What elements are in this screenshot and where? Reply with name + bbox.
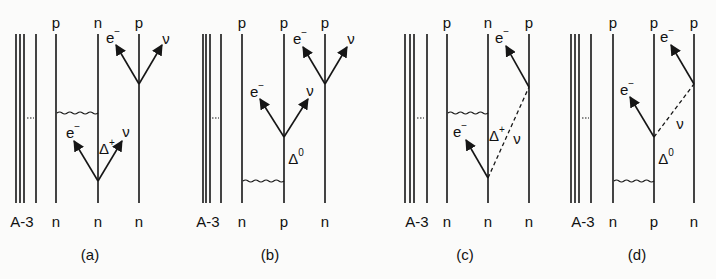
neutrino-label-text: ν	[122, 123, 130, 140]
nucleon-top-label-text: p	[52, 14, 60, 31]
nucleon-bottom-label-text: n	[135, 213, 143, 230]
electron-label-superscript: −	[301, 27, 307, 38]
nucleon-top-label: p	[443, 15, 451, 30]
delta-resonance-label: Δ+	[489, 127, 505, 143]
meson-exchange-wavy-line	[243, 180, 284, 182]
neutrino-label-text: ν	[162, 30, 170, 47]
nucleon-top-label: p	[52, 15, 60, 30]
nucleon-top-label-text: p	[443, 14, 451, 31]
core-label: A-3	[405, 214, 428, 229]
electron-label-superscript: −	[628, 78, 634, 89]
neutrino-arrow	[284, 99, 308, 137]
neutrino-label: ν	[347, 31, 355, 46]
delta-resonance-label-text: Δ	[658, 150, 668, 167]
nucleon-bottom-label-text: n	[94, 213, 102, 230]
panel-caption-text: (b)	[261, 246, 279, 263]
nucleon-top-label-text: p	[321, 14, 329, 31]
panel-caption-text: (c)	[456, 246, 474, 263]
electron-label: e−	[495, 29, 509, 45]
neutrino-label: ν	[162, 31, 170, 46]
virtual-neutrino-label-text: ν	[676, 115, 684, 132]
nucleon-bottom-label-text: n	[609, 213, 617, 230]
nucleon-bottom-label: p	[650, 214, 658, 229]
panel-caption: (d)	[628, 247, 646, 262]
electron-arrow	[630, 97, 654, 137]
electron-label-superscript: −	[114, 26, 120, 37]
delta-resonance-label-text: Δ	[489, 127, 499, 144]
nucleon-bottom-label: n	[484, 214, 492, 229]
nucleon-top-label-text: p	[238, 14, 246, 31]
double-beta-decay-diagram-figure: pnnnpne−νe−νΔ+A-3(a)pnpppne−νe−νΔ0A-3(b)…	[0, 0, 716, 279]
delta-resonance-label-superscript: +	[109, 137, 115, 148]
delta-resonance-label-text: Δ	[288, 150, 298, 167]
electron-label-superscript: −	[668, 25, 674, 36]
panel-caption-text: (a)	[81, 246, 99, 263]
nucleon-bottom-label-text: n	[525, 213, 533, 230]
nucleon-bottom-label: n	[135, 214, 143, 229]
virtual-neutrino-label: ν	[676, 116, 684, 131]
nucleon-top-label-text: p	[690, 14, 698, 31]
nucleon-bottom-label: n	[690, 214, 698, 229]
core-label-text: A-3	[10, 213, 33, 230]
panel-caption-text: (d)	[628, 246, 646, 263]
nucleon-top-label: p	[690, 15, 698, 30]
nucleon-bottom-label: n	[443, 214, 451, 229]
delta-resonance-label: Δ0	[658, 150, 674, 166]
core-label: A-3	[196, 214, 219, 229]
virtual-neutrino-label-text: ν	[513, 130, 521, 147]
core-label: A-3	[571, 214, 594, 229]
meson-exchange-wavy-line	[57, 112, 98, 114]
virtual-neutrino-label: ν	[513, 131, 521, 146]
nucleon-top-label-text: n	[94, 14, 102, 31]
electron-label: e−	[453, 123, 467, 139]
panel-caption: (b)	[261, 247, 279, 262]
electron-arrow	[671, 45, 694, 84]
delta-resonance-label-superscript: 0	[668, 147, 674, 158]
neutrino-arrow	[139, 45, 162, 84]
meson-exchange-wavy-line	[448, 112, 488, 114]
delta-resonance-label: Δ+	[99, 140, 115, 156]
nucleon-top-label-text: p	[650, 14, 658, 31]
electron-arrow	[506, 46, 529, 87]
nucleon-bottom-label-text: n	[321, 213, 329, 230]
nucleon-bottom-label-text: n	[690, 213, 698, 230]
electron-arrow	[303, 47, 325, 84]
electron-arrow	[116, 45, 139, 84]
electron-arrow	[466, 140, 488, 178]
meson-exchange-wavy-line	[614, 180, 654, 182]
panel-a	[16, 34, 162, 203]
nucleon-top-label: p	[135, 15, 143, 30]
nucleon-bottom-label: n	[52, 214, 60, 229]
electron-label: e−	[66, 124, 80, 140]
core-label-text: A-3	[405, 213, 428, 230]
electron-label-superscript: −	[258, 80, 264, 91]
neutrino-arrow	[325, 47, 347, 84]
nucleon-bottom-label-text: n	[484, 213, 492, 230]
nucleon-bottom-label: n	[609, 214, 617, 229]
nucleon-top-label-text: p	[135, 14, 143, 31]
electron-label-superscript: −	[74, 121, 80, 132]
nucleon-bottom-label: n	[94, 214, 102, 229]
nucleon-bottom-label-text: p	[280, 213, 288, 230]
nucleon-top-label-text: n	[484, 14, 492, 31]
nucleon-top-label: p	[321, 15, 329, 30]
electron-arrow	[74, 141, 98, 181]
nucleon-top-label-text: p	[280, 14, 288, 31]
electron-label: e−	[106, 29, 120, 45]
virtual-neutrino-dashed-line	[654, 84, 694, 137]
electron-label: e−	[293, 30, 307, 46]
nucleon-bottom-label-text: n	[443, 213, 451, 230]
electron-arrow	[260, 99, 284, 137]
electron-label: e−	[250, 83, 264, 99]
nucleon-top-label-text: p	[525, 14, 533, 31]
electron-label: e−	[660, 28, 674, 44]
nucleon-bottom-label: n	[238, 214, 246, 229]
nucleon-bottom-label-text: n	[52, 213, 60, 230]
delta-resonance-label-superscript: +	[499, 124, 505, 135]
delta-resonance-label-superscript: 0	[298, 147, 304, 158]
nucleon-top-label: p	[525, 15, 533, 30]
electron-label-superscript: −	[461, 120, 467, 131]
neutrino-label: ν	[306, 83, 314, 98]
nucleon-top-label: p	[280, 15, 288, 30]
nucleon-top-label-text: p	[609, 14, 617, 31]
